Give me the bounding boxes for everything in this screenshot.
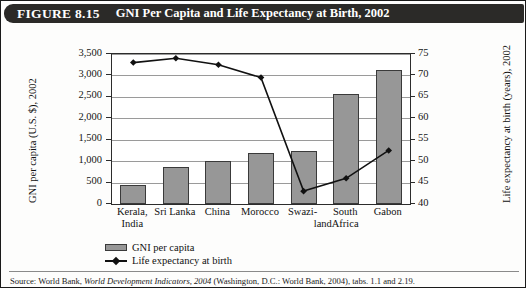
source-note: Source: World Bank, World Development In… — [10, 276, 520, 286]
line-marker — [300, 188, 307, 195]
figure-number: FIGURE 8.15 — [17, 6, 100, 22]
y-axis-right-tick-label: 55 — [418, 133, 429, 144]
line-marker — [173, 55, 180, 62]
y-axis-left-tick-label: 0 — [97, 198, 102, 209]
x-axis-category-label: Gabon — [358, 206, 417, 218]
figure-header: FIGURE 8.15 GNI Per Capita and Life Expe… — [4, 4, 524, 23]
figure-frame: FIGURE 8.15 GNI Per Capita and Life Expe… — [0, 0, 526, 288]
source-suffix: (Washington, D.C.: World Bank, 2004), ta… — [213, 276, 415, 286]
y-axis-left-tick-label: 3,500 — [78, 48, 102, 59]
legend-label: Life expectancy at birth — [132, 255, 232, 266]
category-line-1: Kerala, — [117, 206, 148, 217]
category-line-2: Africa — [316, 218, 375, 230]
line-marker — [215, 61, 222, 68]
y-axis-right-tick-label: 60 — [418, 112, 429, 123]
y-axis-left-tick-label: 2,500 — [78, 90, 102, 101]
category-line-1: China — [205, 206, 230, 217]
y-axis-right-tick-label: 50 — [418, 155, 429, 166]
source-prefix: Source: World Bank, — [10, 276, 82, 286]
y-axis-right-tick-label: 70 — [418, 69, 429, 80]
y-axis-left-tick-label: 1,000 — [78, 155, 102, 166]
figure-title: GNI Per Capita and Life Expectancy at Bi… — [116, 6, 390, 21]
legend-line-marker-icon — [105, 256, 127, 265]
legend-item: GNI per capita — [105, 242, 232, 253]
category-line-1: South — [333, 206, 358, 217]
category-line-1: Swazi- — [288, 206, 317, 217]
y-axis-right-tick-label: 75 — [418, 48, 429, 59]
legend-item: Life expectancy at birth — [105, 255, 232, 266]
line-marker — [258, 74, 265, 81]
y-axis-left-tick-label: 1,500 — [78, 133, 102, 144]
y-axis-left-tick-label: 3,000 — [78, 69, 102, 80]
y-axis-left-tick-label: 2,000 — [78, 112, 102, 123]
category-line-2: India — [103, 218, 162, 230]
y-axis-left-tick-label: 500 — [86, 176, 102, 187]
legend-label: GNI per capita — [132, 242, 194, 253]
line-marker — [130, 59, 137, 66]
source-divider — [9, 271, 519, 272]
source-italic: World Development Indicators, 2004 — [84, 276, 211, 286]
legend: GNI per capitaLife expectancy at birth — [105, 242, 232, 268]
y-axis-right-tick-label: 40 — [418, 198, 429, 209]
y-axis-right-title: Life expectancy at birth (years), 2002 — [501, 45, 512, 203]
y-axis-left-title: GNI per capita (U.S. $), 2002 — [27, 78, 38, 203]
y-axis-right-tick-label: 45 — [418, 176, 429, 187]
y-axis-right-tick-label: 65 — [418, 90, 429, 101]
plot-area — [111, 53, 411, 205]
line-series — [112, 54, 410, 204]
legend-bar-swatch-icon — [105, 244, 127, 251]
category-line-1: Gabon — [374, 206, 402, 217]
